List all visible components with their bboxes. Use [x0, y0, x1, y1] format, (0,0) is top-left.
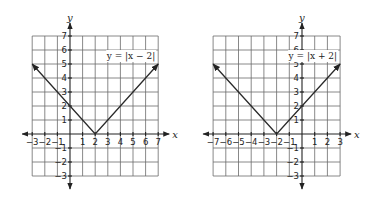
x-tick-label: −4 [245, 137, 258, 147]
absolute-value-graphs: xy−3−2−112345677654321−1−2−3y = |x − 2| … [0, 0, 381, 199]
x-tick-label: 4 [118, 137, 123, 147]
x-tick-label: 2 [325, 137, 330, 147]
x-tick-label: 1 [312, 137, 317, 147]
y-tick-label: −1 [286, 143, 299, 153]
y-tick-label: −2 [54, 157, 67, 167]
x-tick-label: 1 [80, 137, 85, 147]
y-tick-label: 1 [62, 115, 67, 125]
graph-right: xy−7−6−5−4−3−2−11237654321−1−2−3y = |x +… [203, 12, 360, 189]
x-tick-label: −6 [220, 137, 233, 147]
x-tick-label: 3 [337, 137, 342, 147]
y-tick-label: 4 [62, 73, 67, 83]
x-tick-label: −5 [232, 137, 245, 147]
x-tick-label: −2 [39, 137, 52, 147]
x-tick-label: 6 [143, 137, 148, 147]
y-tick-label: −3 [286, 171, 299, 181]
x-tick-label: −3 [258, 137, 271, 147]
equation-label: y = |x + 2| [288, 51, 337, 62]
y-tick-label: 3 [62, 87, 67, 97]
x-tick-label: −7 [207, 137, 220, 147]
y-tick-label: −1 [54, 143, 67, 153]
graph-left: xy−3−2−112345677654321−1−2−3y = |x − 2| [22, 12, 178, 189]
x-tick-label: 2 [92, 137, 97, 147]
y-axis-label: y [298, 12, 305, 23]
x-tick-label: 5 [130, 137, 135, 147]
y-tick-label: 3 [294, 87, 299, 97]
x-tick-label: −3 [26, 137, 39, 147]
y-tick-label: 7 [62, 31, 67, 41]
x-tick-label: 3 [105, 137, 110, 147]
y-tick-label: −3 [54, 171, 67, 181]
y-tick-label: 1 [294, 115, 299, 125]
y-tick-label: −2 [286, 157, 299, 167]
y-tick-label: 4 [294, 73, 299, 83]
x-tick-label: −2 [270, 137, 283, 147]
x-tick-label: 7 [155, 137, 160, 147]
y-tick-label: 6 [62, 45, 67, 55]
y-tick-label: 7 [294, 31, 299, 41]
y-tick-label: 5 [62, 59, 67, 69]
x-axis-label: x [354, 129, 360, 140]
x-axis-label: x [172, 129, 178, 140]
y-axis-label: y [66, 12, 73, 23]
equation-label: y = |x − 2| [106, 51, 155, 62]
